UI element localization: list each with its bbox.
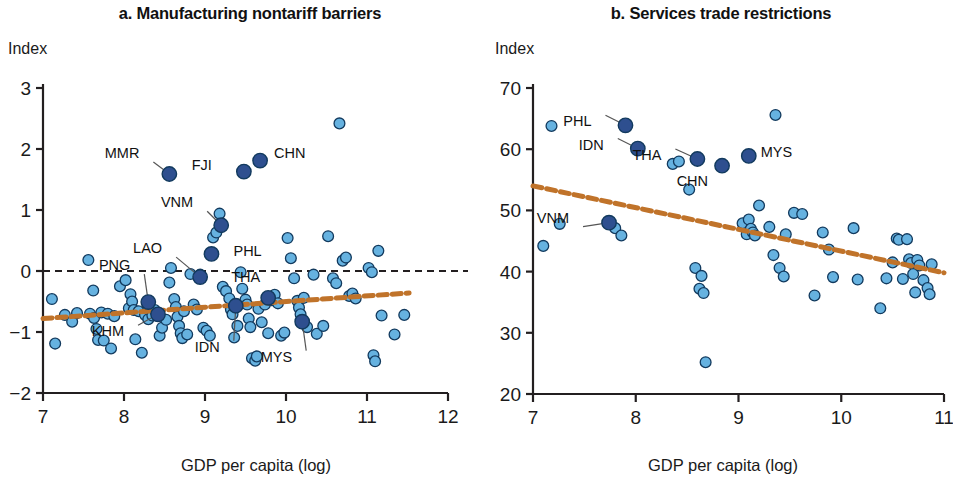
- panel-a-x-axis-label: GDP per capita (log): [0, 456, 494, 475]
- y-tick-label: 30: [500, 323, 521, 344]
- data-point: [323, 231, 334, 242]
- highlighted-data-point: [162, 167, 176, 181]
- highlighted-data-point: [261, 291, 275, 305]
- data-point: [809, 290, 820, 301]
- y-tick-label: 20: [500, 384, 521, 405]
- data-point: [106, 343, 117, 354]
- y-tick-label: −2: [9, 383, 31, 404]
- data-point: [263, 328, 274, 339]
- data-point: [616, 230, 627, 241]
- data-point: [875, 303, 886, 314]
- country-label: MYS: [761, 144, 792, 160]
- country-label: LAO: [133, 240, 162, 256]
- highlighted-data-point: [690, 152, 704, 166]
- panel-b-x-axis-label: GDP per capita (log): [477, 456, 953, 475]
- data-point: [700, 357, 711, 368]
- data-point: [120, 275, 131, 286]
- country-label: IDN: [579, 137, 604, 153]
- panel-b-plot: 2030405060707891011PHLIDNTHACHNMYSVNM: [477, 0, 953, 481]
- highlighted-data-point: [237, 164, 251, 178]
- highlighted-data-point: [214, 218, 228, 232]
- data-point: [256, 317, 267, 328]
- data-point: [182, 329, 193, 340]
- data-point: [674, 156, 685, 167]
- x-tick-label: 7: [38, 406, 49, 427]
- highlighted-data-point: [715, 159, 729, 173]
- data-point: [399, 310, 410, 321]
- data-point: [282, 233, 293, 244]
- y-tick-label: 2: [20, 139, 31, 160]
- data-point: [696, 270, 707, 281]
- country-label: CHN: [677, 173, 708, 189]
- country-label: PNG: [99, 257, 130, 273]
- data-point: [289, 273, 300, 284]
- x-tick-label: 8: [119, 406, 130, 427]
- data-point: [50, 338, 61, 349]
- data-point: [334, 118, 345, 129]
- highlighted-data-point: [295, 314, 309, 328]
- y-tick-label: 40: [500, 262, 521, 283]
- data-point: [817, 227, 828, 238]
- data-point: [285, 253, 296, 264]
- y-tick-label: 3: [20, 78, 31, 99]
- y-tick-label: 70: [500, 78, 521, 99]
- data-point: [279, 327, 290, 338]
- data-point: [778, 271, 789, 282]
- data-point: [373, 245, 384, 256]
- country-label: THA: [231, 269, 260, 285]
- data-point: [47, 294, 58, 305]
- highlighted-data-point: [742, 149, 756, 163]
- data-point: [389, 329, 400, 340]
- data-point: [214, 208, 225, 219]
- country-label: PHL: [233, 243, 261, 259]
- panel-services-trade-restrictions: b. Services trade restrictions Index 203…: [477, 0, 953, 481]
- y-tick-label: 1: [20, 200, 31, 221]
- data-point: [828, 272, 839, 283]
- country-label: THA: [632, 147, 661, 163]
- data-point: [83, 255, 94, 266]
- x-tick-label: 7: [528, 407, 539, 428]
- data-point: [768, 250, 779, 261]
- x-tick-label: 11: [357, 406, 377, 427]
- country-label: MYS: [261, 349, 292, 365]
- data-point: [370, 356, 381, 367]
- data-point: [910, 287, 921, 298]
- x-tick-label: 8: [630, 407, 641, 428]
- data-point: [754, 200, 765, 211]
- x-tick-label: 10: [831, 407, 852, 428]
- data-point: [538, 240, 549, 251]
- country-label: CHN: [274, 145, 305, 161]
- data-point: [902, 234, 913, 245]
- highlighted-data-point: [141, 295, 155, 309]
- x-tick-label: 9: [733, 407, 744, 428]
- data-point: [130, 334, 141, 345]
- y-tick-label: 60: [500, 139, 521, 160]
- data-point: [770, 110, 781, 121]
- data-point: [164, 277, 175, 288]
- data-point: [881, 273, 892, 284]
- y-tick-label: 50: [500, 200, 521, 221]
- data-point: [245, 322, 256, 333]
- highlighted-data-point: [151, 307, 165, 321]
- country-label: FJI: [192, 157, 212, 173]
- data-point: [898, 274, 909, 285]
- data-point: [237, 283, 248, 294]
- y-tick-label: 0: [20, 261, 31, 282]
- country-label: PHL: [563, 113, 591, 129]
- x-tick-label: 10: [275, 406, 296, 427]
- data-point: [308, 269, 319, 280]
- y-tick-label: −1: [9, 322, 31, 343]
- country-label: IDN: [195, 339, 220, 355]
- data-point: [546, 121, 557, 132]
- highlighted-data-point: [229, 299, 243, 313]
- data-point: [376, 310, 387, 321]
- data-point: [852, 274, 863, 285]
- x-tick-label: 9: [200, 406, 211, 427]
- panel-a-plot: −2−10123789101112MMRFJICHNVNMPHLLAOPNGKH…: [0, 0, 476, 481]
- highlighted-data-point: [204, 247, 218, 261]
- data-point: [848, 223, 859, 234]
- data-point: [232, 321, 243, 332]
- data-point: [764, 222, 775, 233]
- data-point: [88, 285, 99, 296]
- x-tick-label: 11: [934, 407, 953, 428]
